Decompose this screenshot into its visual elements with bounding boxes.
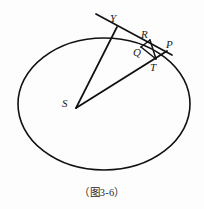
geometry-figure: Y R P Q T S （图3-6） — [0, 0, 204, 209]
geometry-canvas — [0, 0, 204, 209]
point-label-t: T — [150, 62, 156, 73]
point-label-r: R — [141, 29, 148, 40]
figure-caption: （图3-6） — [0, 184, 204, 199]
ellipse-curve-icon — [18, 38, 190, 170]
point-label-q: Q — [133, 47, 141, 58]
point-label-y: Y — [110, 13, 116, 24]
point-label-p: P — [166, 39, 173, 50]
point-label-s: S — [62, 98, 68, 109]
